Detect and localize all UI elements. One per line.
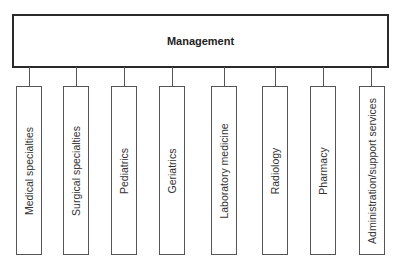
management-box: Management: [12, 14, 389, 68]
connector-line: [275, 67, 276, 86]
connector-line: [371, 67, 372, 86]
department-label: Administration/support services: [366, 98, 378, 244]
management-label: Management: [167, 35, 234, 47]
department-box: Administration/support services: [359, 86, 385, 255]
department-box: Laboratory medicine: [211, 86, 237, 255]
connector-line: [76, 67, 77, 86]
department-label: Pharmacy: [317, 147, 329, 194]
department-label: Surgical specialties: [70, 126, 82, 216]
department-label: Laboratory medicine: [218, 123, 230, 218]
department-box: Pediatrics: [111, 86, 137, 255]
department-box: Pharmacy: [310, 86, 336, 255]
department-label: Geriatrics: [166, 148, 178, 193]
department-box: Medical specialties: [16, 86, 42, 255]
connector-line: [224, 67, 225, 86]
department-label: Radiology: [269, 147, 281, 194]
connector-line: [323, 67, 324, 86]
department-box: Surgical specialties: [63, 86, 89, 255]
department-label: Pediatrics: [118, 147, 130, 193]
department-box: Geriatrics: [159, 86, 185, 255]
connector-line: [29, 67, 30, 86]
connector-line: [172, 67, 173, 86]
department-box: Radiology: [262, 86, 288, 255]
department-label: Medical specialties: [23, 126, 35, 214]
connector-line: [124, 67, 125, 86]
